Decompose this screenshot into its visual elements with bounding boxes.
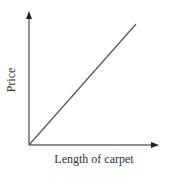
x-axis-arrow-icon: [151, 142, 159, 148]
price-line: [29, 24, 136, 145]
y-axis-arrow-icon: [26, 11, 32, 19]
x-axis-label: Length of carpet: [54, 152, 134, 166]
y-axis-label: Price: [4, 68, 18, 93]
chart: Price Length of carpet: [0, 0, 171, 177]
chart-svg: Price Length of carpet: [0, 0, 171, 177]
